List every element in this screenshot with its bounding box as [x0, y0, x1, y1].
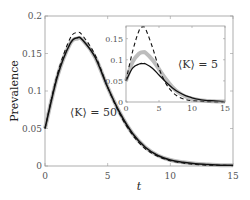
inset-annotation: ⟨K⟩ = 5	[178, 58, 218, 71]
y-tick-label: 0.15	[22, 49, 42, 59]
y-tick-label: 0	[118, 98, 123, 107]
x-tick-label: 15	[227, 171, 239, 181]
y-tick-label: 0.2	[28, 11, 42, 21]
x-axis-label: t	[137, 180, 142, 193]
x-tick-label: 0	[123, 104, 128, 113]
x-tick-label: 10	[165, 171, 177, 181]
y-axis-label: Prevalence	[8, 60, 21, 122]
prevalence-chart: 05101500.050.10.150.2 05101500.050.10.15…	[0, 0, 250, 200]
x-tick-label: 5	[105, 171, 111, 181]
y-tick-label: 0	[36, 161, 42, 171]
x-tick-label: 5	[156, 104, 161, 113]
y-tick-label: 0.05	[105, 77, 123, 86]
y-tick-label: 0.1	[28, 86, 42, 96]
main-annotation: ⟨K⟩ = 50	[70, 106, 117, 119]
y-tick-label: 0.15	[105, 35, 123, 44]
y-tick-label: 0.1	[110, 56, 123, 65]
y-tick-label: 0.05	[22, 124, 42, 134]
x-tick-label: 0	[42, 171, 48, 181]
x-tick-label: 15	[220, 104, 230, 113]
x-tick-label: 10	[187, 104, 197, 113]
